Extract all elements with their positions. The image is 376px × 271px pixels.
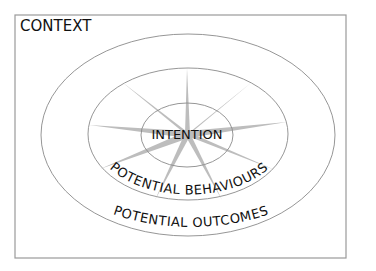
intention-label: INTENTION xyxy=(151,127,222,142)
intention-behaviour-outcome-diagram: CONTEXT INTENTION POTENTIAL BEHAVIOURS P… xyxy=(0,0,376,271)
context-label: CONTEXT xyxy=(20,17,92,35)
